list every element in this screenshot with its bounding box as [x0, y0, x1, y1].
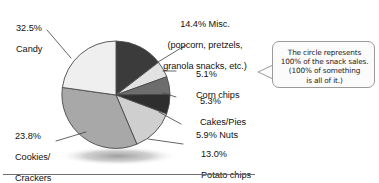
label-cakes-pies-pct: 5.3%	[200, 96, 221, 106]
callout-text: The circle represents 100% of the snack …	[273, 48, 376, 85]
label-potato-chips-pct: 13.0%	[201, 149, 227, 159]
callout-box: The circle represents 100% of the snack …	[272, 41, 375, 88]
pie-shadow	[58, 147, 178, 166]
label-corn-chips-pct: 5.1%	[196, 69, 217, 79]
leader-line-candy	[47, 30, 71, 58]
label-misc-line2: (popcorn, pretzels,	[167, 40, 242, 50]
bottom-divider	[3, 174, 255, 175]
label-cookies-crackers-line1: 23.8%	[15, 131, 41, 141]
label-potato-chips: 13.0% Potato chips	[191, 138, 251, 183]
leader-line-potato-chips	[148, 139, 183, 144]
label-misc-line1: 14.4% Misc.	[180, 19, 230, 29]
label-candy-name: Candy	[16, 44, 42, 54]
label-candy: 32.5% Candy	[6, 12, 42, 65]
label-cookies-crackers-line2: Cookies/	[15, 152, 50, 162]
pie-slice-candy	[62, 41, 116, 95]
label-candy-pct: 32.5%	[16, 23, 42, 33]
pie-chart-figure: 32.5% Candy 14.4% Misc. (popcorn, pretze…	[0, 0, 379, 183]
